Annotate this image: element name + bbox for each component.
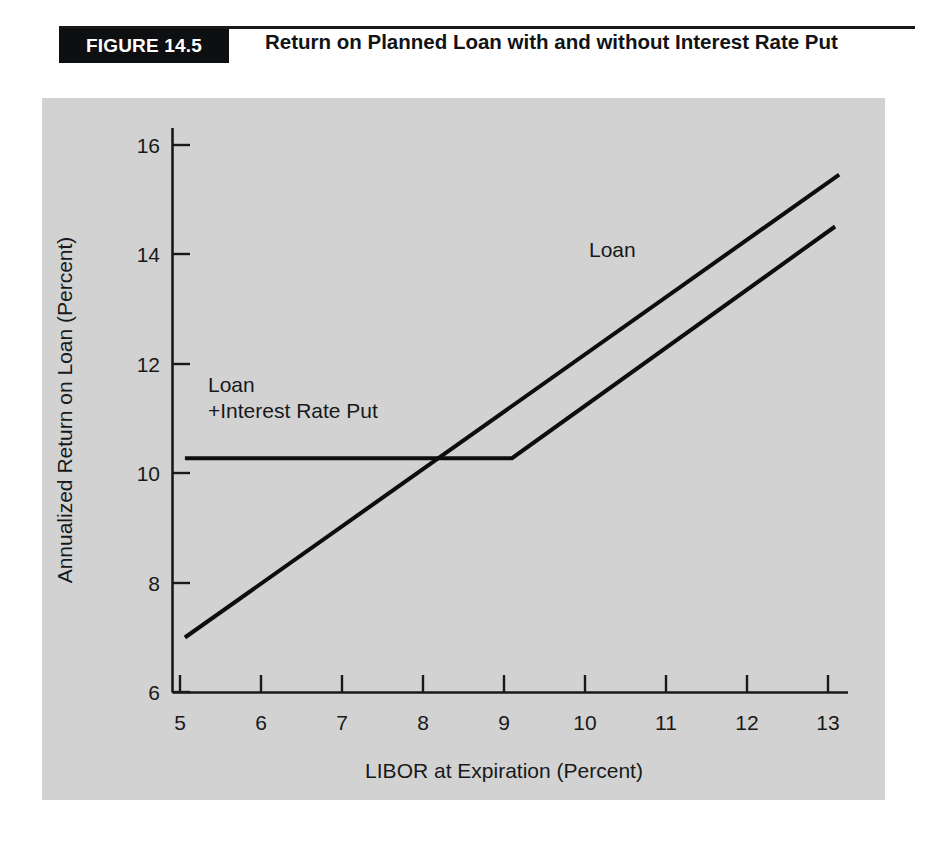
annotation-loan: Loan xyxy=(589,238,636,261)
y-axis-ticks xyxy=(173,145,191,692)
y-tick-label: 6 xyxy=(148,681,160,704)
y-axis-tick-labels: 16 14 12 10 8 6 xyxy=(137,134,161,704)
y-tick-label: 8 xyxy=(148,572,160,595)
x-tick-label: 9 xyxy=(498,711,510,734)
y-tick-label: 14 xyxy=(137,243,161,266)
figure-header: FIGURE 14.5 Return on Planned Loan with … xyxy=(59,26,915,88)
x-tick-label: 13 xyxy=(816,711,839,734)
annotation-loan-put-line2: +Interest Rate Put xyxy=(208,399,378,422)
y-tick-label: 12 xyxy=(137,353,160,376)
figure-number-badge: FIGURE 14.5 xyxy=(59,29,229,63)
x-axis-title: LIBOR at Expiration (Percent) xyxy=(365,759,643,782)
y-tick-label: 16 xyxy=(137,134,160,157)
x-tick-label: 12 xyxy=(735,711,758,734)
line-chart: 16 14 12 10 8 6 5 6 7 8 9 10 11 xyxy=(42,98,885,800)
series-line-loan-plus-put xyxy=(185,227,835,459)
x-tick-label: 5 xyxy=(174,711,186,734)
x-axis-ticks xyxy=(180,675,828,693)
x-tick-label: 11 xyxy=(655,711,677,734)
x-tick-label: 7 xyxy=(336,711,348,734)
chart-panel: 16 14 12 10 8 6 5 6 7 8 9 10 11 xyxy=(42,98,885,800)
y-tick-label: 10 xyxy=(137,462,160,485)
x-tick-label: 10 xyxy=(573,711,596,734)
x-axis-tick-labels: 5 6 7 8 9 10 11 12 13 xyxy=(174,711,840,734)
annotation-loan-put-line1: Loan xyxy=(208,373,255,396)
x-tick-label: 6 xyxy=(255,711,267,734)
x-tick-label: 8 xyxy=(417,711,429,734)
y-axis-title: Annualized Return on Loan (Percent) xyxy=(53,237,76,584)
figure-title: Return on Planned Loan with and without … xyxy=(265,29,915,54)
